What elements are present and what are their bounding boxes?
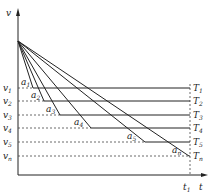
a-label-2: a2	[31, 90, 40, 101]
T-label-5: T5	[193, 137, 203, 148]
a-label-2-subscript: 2	[35, 94, 40, 101]
T-label-1-subscript: 1	[199, 87, 203, 94]
a-label-4: a4	[74, 117, 83, 128]
v-label-2: v2	[3, 96, 12, 107]
x-axis-label-text: t	[199, 182, 203, 192]
t1-label-subscript: 1	[187, 186, 191, 193]
v-label-3: v3	[3, 110, 12, 121]
v-label-5: v5	[3, 137, 12, 148]
a-label-1-subscript: 1	[26, 81, 30, 88]
T-label-1: T1	[193, 83, 203, 94]
T-label-6: Tn	[193, 151, 203, 162]
a-label-5: a5	[127, 131, 136, 142]
T-label-4: T4	[193, 123, 203, 134]
a-label-1: a1	[21, 77, 30, 88]
a-label-6-subscript: n	[177, 149, 181, 156]
v-label-4-subscript: 4	[7, 127, 12, 134]
a-label-3-subscript: 3	[51, 108, 55, 115]
T-label-5-subscript: 5	[199, 141, 203, 148]
v-label-3-subscript: 3	[8, 114, 12, 121]
T-label-4-subscript: 4	[198, 127, 203, 134]
v-label-6: vn	[3, 151, 12, 162]
y-axis-label: v	[6, 8, 11, 18]
a-label-6: an	[172, 145, 181, 156]
T-label-2: T2	[193, 96, 203, 107]
v-label-5-subscript: 5	[8, 141, 12, 148]
v-label-4: v4	[3, 123, 12, 134]
decel-line-6	[18, 41, 189, 156]
a-label-5-subscript: 5	[132, 135, 136, 142]
y-axis-label-text: v	[6, 8, 11, 18]
T-label-3: T3	[193, 110, 203, 121]
T-label-6-subscript: n	[199, 155, 203, 162]
y-axis-arrow-icon	[16, 8, 20, 16]
v-label-1-subscript: 1	[8, 87, 12, 94]
a-label-3: a3	[46, 104, 55, 115]
x-axis-label: t	[199, 182, 203, 192]
a-label-4-subscript: 4	[78, 121, 83, 128]
diagram-canvas: vtt1v1a1T1v2a2T2v3a3T3v4a4T4v5a5T5vnanTn	[0, 0, 211, 196]
v-label-1: v1	[3, 83, 12, 94]
v-label-2-subscript: 2	[7, 100, 12, 107]
v-label-6-subscript: n	[8, 155, 12, 162]
velocity-time-diagram: vtt1v1a1T1v2a2T2v3a3T3v4a4T4v5a5T5vnanTn	[0, 0, 211, 196]
T-label-2-subscript: 2	[198, 100, 203, 107]
T-label-3-subscript: 3	[199, 114, 203, 121]
t1-label: t1	[183, 182, 190, 193]
x-axis-arrow-icon	[201, 173, 208, 177]
